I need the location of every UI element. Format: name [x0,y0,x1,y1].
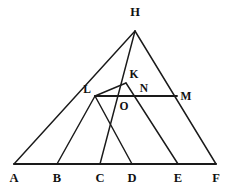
vertex-label-d: D [127,171,136,185]
diagram-canvas: HKLNMOABCDEF [0,0,231,190]
vertex-label-a: A [9,171,18,185]
vertex-label-o: O [120,100,129,112]
geometry-diagram: HKLNMOABCDEF [0,0,231,190]
vertex-label-m: M [181,90,192,102]
vertex-label-h: H [130,5,140,19]
vertex-label-b: B [53,171,61,185]
vertex-label-e: E [174,171,182,185]
vertex-label-f: F [212,171,220,185]
vertex-label-n: N [140,82,149,94]
vertex-label-c: C [95,171,104,185]
vertex-label-l: L [83,83,91,95]
vertex-labels-group: HKLNMOABCDEF [9,5,220,185]
seg-L-K [95,83,126,96]
cevian-L-B [57,96,95,164]
vertex-label-k: K [130,68,139,80]
side-H-F [135,31,216,164]
